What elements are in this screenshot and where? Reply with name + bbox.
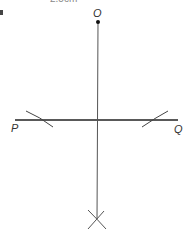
label-q: Q	[174, 124, 183, 135]
point-o	[96, 20, 100, 24]
label-o: O	[93, 8, 102, 19]
arc-left	[26, 111, 53, 127]
arc-cross-2	[88, 211, 104, 229]
perpendicular-line	[97, 22, 98, 219]
clipped-measurement-label: 2.5cm	[50, 0, 77, 4]
arc-right	[142, 111, 168, 127]
construction-diagram	[0, 0, 184, 232]
left-edge-fragment	[0, 10, 3, 15]
label-p: P	[11, 123, 18, 134]
